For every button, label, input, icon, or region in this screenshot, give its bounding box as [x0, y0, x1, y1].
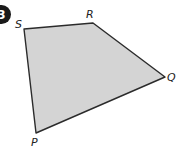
quadrilateral-pqrs	[24, 23, 165, 133]
quadrilateral-figure	[0, 0, 194, 154]
vertex-label-r: R	[86, 8, 94, 21]
vertex-label-s: S	[15, 18, 22, 31]
vertex-label-q: Q	[167, 71, 176, 84]
vertex-label-p: P	[31, 136, 38, 149]
